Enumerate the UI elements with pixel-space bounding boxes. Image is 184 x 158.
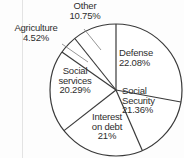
slice-label-defense: Defense 22.08% xyxy=(119,48,181,67)
slice-label-other-value: 10.75% xyxy=(56,11,114,21)
slice-label-defense-value: 22.08% xyxy=(119,58,181,68)
slice-label-social-security: Social Security 21.36% xyxy=(122,86,182,115)
slice-label-agriculture: Agriculture 4.52% xyxy=(0,23,72,42)
slice-label-agriculture-value: 4.52% xyxy=(0,33,72,43)
slice-label-other: Other 10.75% xyxy=(56,1,114,20)
pie-chart-figure: Other 10.75% Agriculture 4.52% Defense 2… xyxy=(0,0,184,158)
slice-label-social-services: Social services 20.29% xyxy=(44,66,106,95)
slice-label-social-services-value: 20.29% xyxy=(44,85,106,95)
slice-label-interest-value: 21% xyxy=(78,131,136,141)
slice-label-interest-on-debt: Interest on debt 21% xyxy=(78,112,136,141)
